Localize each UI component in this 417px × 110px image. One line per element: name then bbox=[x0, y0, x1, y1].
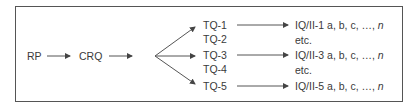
node-tq5: TQ-5 bbox=[203, 80, 227, 92]
output-iq5-text: IQ/II-5 a, b, c, …, bbox=[295, 80, 378, 92]
output-iq3-n: n bbox=[378, 49, 384, 61]
arrow-fan-tq1 bbox=[155, 27, 195, 56]
output-iq1: IQ/II-1 a, b, c, …, n bbox=[295, 19, 384, 31]
node-tq2: TQ-2 bbox=[203, 33, 227, 45]
output-iq3: IQ/II-3 a, b, c, …, n bbox=[295, 49, 384, 61]
output-iq5: IQ/II-5 a, b, c, …, n bbox=[295, 80, 384, 92]
output-etc-2: etc. bbox=[295, 64, 312, 76]
node-crq: CRQ bbox=[79, 50, 102, 62]
arrow-fan-tq5 bbox=[155, 56, 195, 84]
node-rp: RP bbox=[27, 50, 42, 62]
output-iq3-text: IQ/II-3 a, b, c, …, bbox=[295, 49, 378, 61]
output-etc-1: etc. bbox=[295, 34, 312, 46]
node-tq1: TQ-1 bbox=[203, 19, 227, 31]
output-iq1-n: n bbox=[378, 19, 384, 31]
node-tq3: TQ-3 bbox=[203, 49, 227, 61]
node-tq4: TQ-4 bbox=[203, 63, 227, 75]
output-iq5-n: n bbox=[378, 80, 384, 92]
output-iq1-text: IQ/II-1 a, b, c, …, bbox=[295, 19, 378, 31]
